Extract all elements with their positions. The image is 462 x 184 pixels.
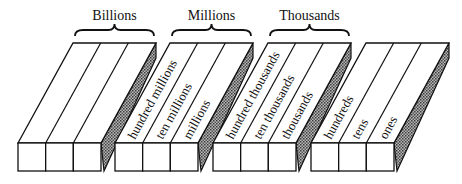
place-cell	[143, 143, 171, 171]
place-value-diagram: Billionshundred millionsten millionsmill…	[0, 0, 462, 184]
brace-icon	[75, 24, 154, 36]
place-cell	[213, 143, 241, 171]
place-cell	[311, 143, 339, 171]
brace-icon	[172, 24, 251, 36]
period-label: Millions	[188, 8, 235, 23]
period-label: Billions	[92, 8, 136, 23]
place-cell	[268, 143, 296, 171]
brace-icon	[270, 24, 349, 36]
place-cell	[18, 143, 46, 171]
place-cell	[170, 143, 198, 171]
place-cell	[115, 143, 143, 171]
place-cell	[366, 143, 394, 171]
place-cell	[73, 143, 101, 171]
place-cell	[46, 143, 74, 171]
place-cell	[339, 143, 367, 171]
place-cell	[241, 143, 269, 171]
period-label: Thousands	[279, 8, 340, 23]
